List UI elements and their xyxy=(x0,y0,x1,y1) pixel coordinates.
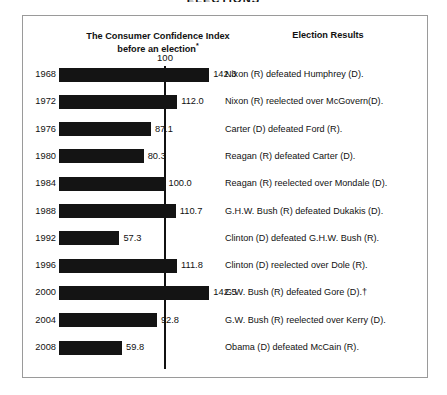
chart-row: 2000142.5G.W. Bush (R) defeated Gore (D)… xyxy=(23,284,429,301)
row-election-result: Nixon (R) defeated Humphrey (D). xyxy=(225,68,425,81)
row-value-label: 92.8 xyxy=(161,314,179,327)
chart-row: 1984100.0Reagan (R) reelected over Monda… xyxy=(23,175,429,192)
row-bar xyxy=(59,68,209,82)
chart-row: 199257.3Clinton (D) defeated G.H.W. Bush… xyxy=(23,230,429,247)
row-value-label: 80.3 xyxy=(148,150,166,163)
row-election-result: Reagan (R) defeated Carter (D). xyxy=(225,150,425,163)
chart-row: 1988110.7G.H.W. Bush (R) defeated Dukaki… xyxy=(23,203,429,220)
row-year-label: 1980 xyxy=(25,150,56,163)
row-year-label: 1976 xyxy=(25,123,56,136)
chart-row: 198080.3Reagan (R) defeated Carter (D). xyxy=(23,148,429,165)
row-bar xyxy=(59,122,151,136)
chart-row: 197687.1Carter (D) defeated Ford (R). xyxy=(23,121,429,138)
row-election-result: G.H.W. Bush (R) defeated Dukakis (D). xyxy=(225,205,425,218)
row-bar xyxy=(59,286,209,300)
row-year-label: 1972 xyxy=(25,95,56,108)
chart-row: 200492.8G.W. Bush (R) reelected over Ker… xyxy=(23,312,429,329)
row-value-label: 57.3 xyxy=(123,232,141,245)
exhibit-super-title: ELECTIONS xyxy=(0,0,447,2)
row-bar xyxy=(59,204,176,218)
row-value-label: 87.1 xyxy=(155,123,173,136)
row-election-result: Reagan (R) reelected over Mondale (D). xyxy=(225,177,425,190)
row-election-result: Obama (D) defeated McCain (R). xyxy=(225,341,425,354)
row-election-result: G.W. Bush (R) reelected over Kerry (D). xyxy=(225,314,425,327)
chart-row: 1968142.3Nixon (R) defeated Humphrey (D)… xyxy=(23,66,429,83)
row-election-result: G.W. Bush (R) defeated Gore (D).† xyxy=(225,286,425,299)
chart-row: 1996111.8Clinton (D) reelected over Dole… xyxy=(23,257,429,274)
row-bar xyxy=(59,341,122,355)
row-year-label: 1988 xyxy=(25,205,56,218)
row-year-label: 1984 xyxy=(25,177,56,190)
row-value-label: 100.0 xyxy=(169,177,192,190)
row-bar xyxy=(59,149,144,163)
row-year-label: 2004 xyxy=(25,314,56,327)
row-election-result: Carter (D) defeated Ford (R). xyxy=(225,123,425,136)
row-bar xyxy=(59,231,119,245)
row-election-result: Clinton (D) reelected over Dole (R). xyxy=(225,259,425,272)
row-year-label: 1968 xyxy=(25,68,56,81)
chart-row: 1972112.0Nixon (R) reelected over McGove… xyxy=(23,93,429,110)
chart-row: 200859.8Obama (D) defeated McCain (R). xyxy=(23,339,429,356)
row-value-label: 59.8 xyxy=(126,341,144,354)
row-value-label: 111.8 xyxy=(181,259,203,272)
row-election-result: Nixon (R) reelected over McGovern(D). xyxy=(225,95,425,108)
row-year-label: 2000 xyxy=(25,286,56,299)
row-bar xyxy=(59,313,157,327)
row-year-label: 1996 xyxy=(25,259,56,272)
row-value-label: 112.0 xyxy=(181,95,204,108)
row-bar xyxy=(59,95,177,109)
row-election-result: Clinton (D) defeated G.H.W. Bush (R). xyxy=(225,232,425,245)
row-year-label: 2008 xyxy=(25,341,56,354)
row-value-label: 110.7 xyxy=(180,205,203,218)
row-year-label: 1992 xyxy=(25,232,56,245)
row-bar xyxy=(59,259,177,273)
row-bar xyxy=(59,177,165,191)
chart-rows: 1968142.3Nixon (R) defeated Humphrey (D)… xyxy=(23,16,429,379)
chart-frame: The Consumer Confidence Index before an … xyxy=(22,15,428,378)
